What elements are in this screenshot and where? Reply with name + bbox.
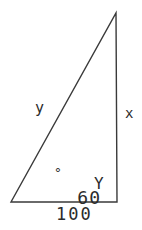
- degree-symbol-icon: °: [54, 166, 63, 179]
- triangle-diagram: y x Y 100 60°: [0, 0, 142, 230]
- angle-label-group: 60°: [30, 171, 101, 225]
- angle-value: 60: [77, 187, 101, 208]
- hypotenuse-label: y: [35, 101, 44, 116]
- vertical-leg-label: x: [125, 106, 133, 120]
